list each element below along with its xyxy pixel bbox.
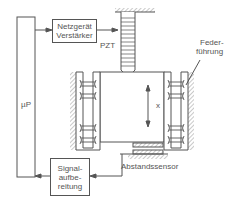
sensor-label: Abstandssensor (121, 162, 178, 171)
actuator-label: PZT (100, 41, 115, 50)
signal-processing-box: Signal- aufbe- reitung (50, 158, 90, 196)
diagram: Netzgerät Verstärker Signal- aufbe- reit… (0, 0, 242, 211)
amplifier-label-line1: Netzgerät (57, 22, 92, 31)
displacement-label: x (156, 101, 160, 110)
amplifier-label-line2: Verstärker (56, 31, 92, 40)
controller-label: µP (19, 100, 33, 109)
signal-label-line1: Signal- (58, 164, 83, 173)
amplifier-box: Netzgerät Verstärker (52, 19, 97, 43)
spring-guide-label-line2: führung (196, 47, 223, 56)
spring-guide-label-line1: Feder- (200, 38, 224, 47)
diagram-graphics (0, 0, 242, 211)
controller-box (17, 17, 35, 177)
signal-label-line2: aufbe- (59, 173, 82, 182)
signal-label-line3: reitung (58, 182, 82, 191)
